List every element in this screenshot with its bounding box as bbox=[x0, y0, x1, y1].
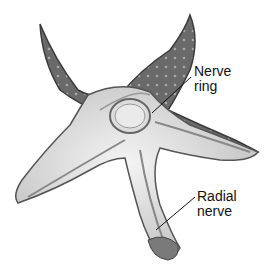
nerve-ring-label-line1: Nerve bbox=[194, 64, 231, 79]
nerve-ring bbox=[110, 99, 150, 133]
radial-nerve-label: Radial nerve bbox=[197, 189, 237, 219]
radial-nerve-label-line1: Radial bbox=[197, 189, 237, 204]
sea-star-illustration bbox=[0, 0, 273, 274]
nerve-ring-label: Nerve ring bbox=[194, 64, 231, 94]
radial-nerve-label-line2: nerve bbox=[197, 204, 237, 219]
nerve-ring-label-line2: ring bbox=[194, 79, 231, 94]
